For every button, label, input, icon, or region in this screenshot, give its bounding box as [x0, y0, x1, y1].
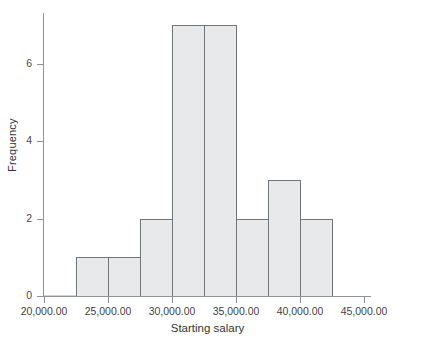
y-axis-tick-label: 0 [2, 290, 32, 300]
y-axis-tick [37, 141, 43, 142]
histogram-bar [172, 25, 205, 296]
histogram-bar [76, 257, 109, 296]
histogram-bar [236, 219, 269, 296]
x-axis-tick [172, 297, 173, 303]
y-axis-tick-label: 6 [2, 58, 32, 68]
y-axis-title: Frequency [6, 100, 20, 190]
y-axis-tick [37, 219, 43, 220]
histogram-bar [204, 25, 237, 296]
x-axis-tick [364, 297, 365, 303]
x-axis-tick [108, 297, 109, 303]
histogram-bar [108, 257, 141, 296]
y-axis-tick [37, 64, 43, 65]
histogram-bar [300, 219, 333, 296]
histogram-bar [268, 180, 301, 296]
x-axis-line [44, 296, 371, 297]
y-axis-tick [37, 296, 43, 297]
x-axis-tick [44, 297, 45, 303]
y-axis-tick-label: 2 [2, 213, 32, 223]
x-axis-tick [236, 297, 237, 303]
x-axis-tick [300, 297, 301, 303]
histogram-figure: 0246 20,000.0025,000.0030,000.0035,000.0… [0, 0, 437, 352]
y-axis-line [43, 13, 44, 297]
x-axis-title: Starting salary [44, 322, 371, 334]
x-axis-tick-label: 45,000.00 [324, 305, 404, 317]
histogram-bar [140, 219, 173, 296]
